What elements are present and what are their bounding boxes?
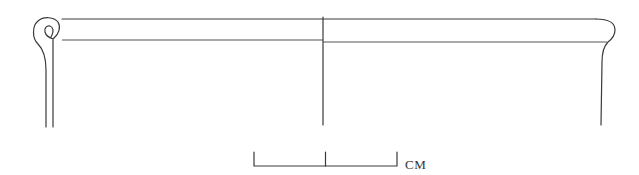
left-rolled-rim <box>34 18 60 127</box>
scale-unit-label: CM <box>405 157 426 173</box>
scale-bar <box>254 152 397 166</box>
right-rounded-rim <box>596 19 615 125</box>
vessel-profile-drawing <box>0 0 639 175</box>
right-rim-section <box>596 19 615 125</box>
left-rim-section <box>34 18 60 127</box>
